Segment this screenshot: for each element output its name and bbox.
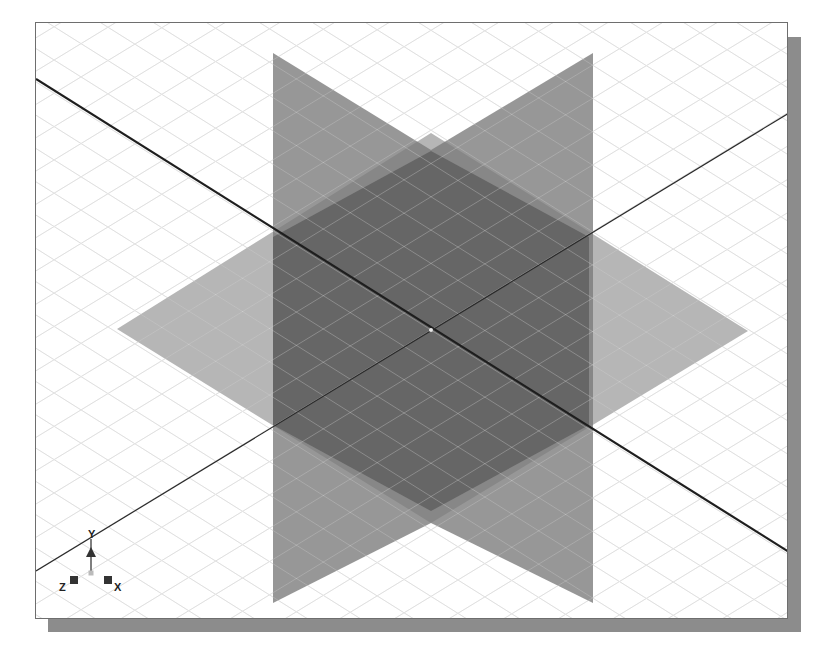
grid-line xyxy=(36,23,788,122)
grid-line xyxy=(36,581,788,619)
grid-line xyxy=(36,23,788,71)
triad-z-label: Z xyxy=(59,581,66,593)
coordinate-triad: Y Z X xyxy=(59,528,122,593)
grid-line xyxy=(36,23,788,104)
triad-z-cube-icon xyxy=(70,576,78,584)
grid-line xyxy=(36,23,788,122)
grid-line xyxy=(36,23,788,89)
origin-point[interactable] xyxy=(429,328,433,332)
3d-viewport[interactable]: Y Z X xyxy=(35,22,788,619)
grid-line xyxy=(36,23,788,138)
triad-x-label: X xyxy=(114,581,122,593)
triad-y-label: Y xyxy=(88,528,96,540)
grid-line xyxy=(36,581,788,619)
grid-line xyxy=(36,23,788,138)
grid-line xyxy=(36,23,788,89)
triad-origin-icon xyxy=(89,571,94,576)
scene-canvas[interactable]: Y Z X xyxy=(36,23,788,619)
grid-line xyxy=(36,23,788,71)
triad-x-cube-icon xyxy=(104,576,112,584)
datum-planes[interactable] xyxy=(36,23,788,619)
